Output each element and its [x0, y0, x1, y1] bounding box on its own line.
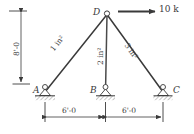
support-C: [154, 85, 173, 101]
support-C-hatch: [154, 96, 173, 100]
horizontal-dimension-label-2: 6'-0: [122, 107, 136, 115]
truss-diagram: A B C D 10 k 1 in² 2 in² 3 in² 8'-0 6'-0…: [0, 0, 194, 134]
node-label-B: B: [90, 86, 97, 95]
support-C-triangle: [158, 89, 169, 96]
load-label: 10 k: [159, 5, 179, 14]
support-B-triangle: [100, 89, 111, 96]
node-label-C: C: [173, 86, 180, 95]
support-B-hatch: [96, 96, 115, 100]
support-A-hatch: [35, 96, 55, 100]
node-label-D: D: [93, 8, 100, 17]
support-A-triangle: [40, 89, 51, 96]
member-BD: [106, 15, 108, 93]
joint-D: [104, 11, 109, 16]
node-label-A: A: [33, 86, 40, 95]
support-B: [96, 85, 115, 101]
vertical-dimension-label: 8'-0: [13, 42, 21, 56]
member-area-label-BD: 2 in²: [97, 48, 105, 65]
diagram-canvas: [0, 0, 194, 134]
horizontal-dimension-label-1: 6'-0: [62, 107, 76, 115]
